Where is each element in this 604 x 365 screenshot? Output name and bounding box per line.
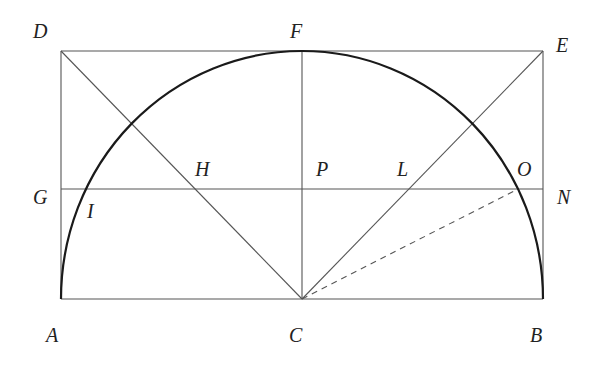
label-E: E <box>555 34 568 56</box>
label-B: B <box>530 324 542 346</box>
segment-EC <box>302 51 543 299</box>
segment-DC <box>61 51 302 299</box>
label-A: A <box>44 324 59 346</box>
label-P: P <box>315 158 328 180</box>
label-O: O <box>517 158 531 180</box>
geometry-diagram: D F E G I H P L O N A C B <box>0 0 604 365</box>
label-F: F <box>289 20 303 42</box>
segment-CO-dashed <box>302 189 518 299</box>
label-L: L <box>396 158 408 180</box>
label-G: G <box>33 186 48 208</box>
label-D: D <box>32 20 48 42</box>
label-I: I <box>86 200 95 222</box>
label-C: C <box>289 324 303 346</box>
label-N: N <box>556 186 572 208</box>
label-H: H <box>194 158 211 180</box>
